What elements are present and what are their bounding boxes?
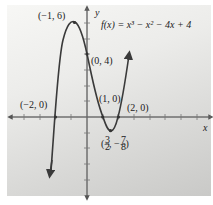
y-axis-label: y	[94, 7, 100, 18]
point-root-left	[54, 115, 57, 118]
svg-text:, −: , −	[109, 138, 120, 149]
max-point-label: (−1, 6)	[38, 10, 65, 22]
point-root-right	[117, 115, 120, 118]
function-graph: y x f(x) = x³ − x² − 4x + 4 (−1, 6) (0, …	[0, 0, 213, 205]
root-mid-label: (1, 0)	[99, 93, 121, 105]
point-y-intercept	[85, 52, 88, 55]
point-max	[73, 21, 76, 24]
equation-label: f(x) = x³ − x² − 4x + 4	[101, 19, 191, 31]
point-root-mid	[101, 115, 104, 118]
root-left-label: (−2, 0)	[20, 99, 47, 111]
y-axis	[84, 8, 90, 198]
y-intercept-label: (0, 4)	[91, 55, 113, 67]
root-right-label: (2, 0)	[127, 102, 149, 114]
point-min	[109, 129, 112, 132]
x-axis	[10, 114, 211, 120]
svg-text:): )	[126, 138, 129, 150]
x-axis-label: x	[202, 122, 208, 133]
min-point-label: ( 3 2 , − 7 8 )	[101, 134, 129, 152]
